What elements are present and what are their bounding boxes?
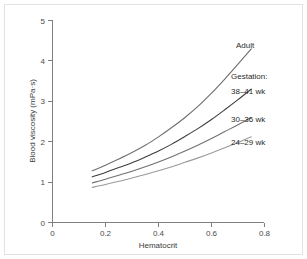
series-label-adult: Adult <box>236 41 255 50</box>
series-line-38-41-wk <box>92 89 251 177</box>
y-tick-label-5: 5 <box>41 17 46 26</box>
y-tick-label-3: 3 <box>41 97 46 106</box>
x-tick-label-4: 0.8 <box>259 229 271 238</box>
series-label-24-29-wk: 24–29 wk <box>231 138 266 147</box>
x-tick-label-1: 0.2 <box>100 229 112 238</box>
legend-group-label: Gestation: <box>231 72 267 81</box>
line-chart: 0 1 2 3 4 5 0 0.2 0.4 0.6 0.8 Hematocrit… <box>0 0 307 259</box>
series-line-adult <box>92 49 251 171</box>
x-axis-title: Hematocrit <box>139 241 178 250</box>
x-tick-label-3: 0.6 <box>206 229 218 238</box>
y-tick-label-2: 2 <box>41 138 46 147</box>
y-tick-label-0: 0 <box>41 219 46 228</box>
y-axis-title: Blood viscosity (mPa·s) <box>28 79 37 163</box>
x-tick-label-0: 0 <box>50 229 55 238</box>
series-label-30-36-wk: 30–36 wk <box>231 115 266 124</box>
y-tick-label-1: 1 <box>41 178 46 187</box>
figure-container: 0 1 2 3 4 5 0 0.2 0.4 0.6 0.8 Hematocrit… <box>0 0 307 259</box>
y-tick-label-4: 4 <box>41 57 46 66</box>
series-label-38-41-wk: 38–41 wk <box>231 87 266 96</box>
x-tick-label-2: 0.4 <box>153 229 165 238</box>
